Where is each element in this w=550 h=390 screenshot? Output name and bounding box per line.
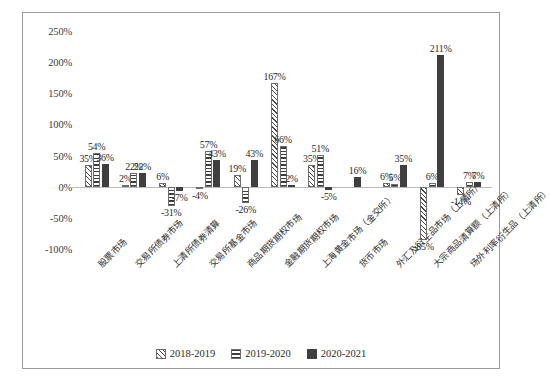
legend-label: 2019-2020 [245, 348, 291, 359]
bar-2019-2020-交易所债券市场 [130, 173, 137, 187]
y-axis-tick: 250% [48, 26, 72, 37]
zero-axis-line [72, 187, 492, 188]
data-label: 35% [395, 153, 412, 164]
bar-2019-2020-外汇及衍生品市场（上清所） [391, 184, 398, 187]
bar-2020-2021-外汇及衍生品市场（上清所） [400, 165, 407, 187]
data-label: 51% [312, 143, 329, 154]
bar-2018-2019-股票市场 [85, 165, 92, 187]
x-axis-label: 股票市场 [95, 236, 130, 271]
data-label: -85% [413, 241, 433, 252]
legend-item[interactable]: 2018-2019 [156, 348, 216, 359]
data-label: -4% [192, 190, 208, 201]
data-label: 19% [229, 163, 246, 174]
chart-frame: 250%200%150%100%50%0%-50%-100%35%54%36%股… [22, 12, 500, 369]
data-label: 2% [285, 173, 298, 184]
bar-2020-2021-上海黄金市场（金交所） [325, 187, 332, 190]
bar-2020-2021-货币市场 [354, 177, 361, 187]
legend-item[interactable]: 2020-2021 [307, 348, 367, 359]
bar-2019-2020-商品期货期权市场 [242, 187, 249, 203]
data-label: 54% [88, 141, 105, 152]
bar-2018-2019-交易所债券市场 [122, 185, 129, 187]
bar-2019-2020-场外利率衍生品（上清所） [466, 182, 473, 186]
legend-item[interactable]: 2019-2020 [231, 348, 291, 359]
y-axis-tick: 50% [53, 150, 72, 161]
legend-label: 2020-2021 [321, 348, 367, 359]
bar-2020-2021-金融期货期权市场 [288, 185, 295, 187]
data-label: -31% [161, 207, 181, 218]
plot-area: 250%200%150%100%50%0%-50%-100%35%54%36%股… [78, 31, 488, 249]
data-label: 43% [246, 148, 263, 159]
data-label: -26% [235, 204, 255, 215]
bar-2019-2020-上海黄金市场（金交所） [317, 155, 324, 187]
data-label: 36% [96, 152, 113, 163]
y-axis-tick: -50% [50, 212, 72, 223]
data-label: -5% [321, 191, 337, 202]
data-label: -7% [172, 192, 188, 203]
data-label: 22% [134, 161, 151, 172]
bar-2019-2020-大宗商品清算额（上清所） [429, 183, 436, 187]
bar-2018-2019-大宗商品清算额（上清所） [420, 187, 427, 240]
x-axis-label: 货币市场 [356, 236, 391, 271]
bar-2018-2019-场外利率衍生品（上清所） [457, 187, 464, 196]
y-axis-tick: -100% [45, 244, 72, 255]
data-label: 211% [430, 43, 452, 54]
data-label: 16% [349, 165, 366, 176]
y-axis-tick: 100% [48, 119, 72, 130]
data-label: -14% [451, 196, 471, 207]
bar-2018-2019-交易所基金市场 [196, 187, 203, 189]
legend-swatch-solid [307, 349, 317, 359]
bar-2020-2021-上清所债券清算 [176, 187, 183, 191]
bar-2020-2021-交易所基金市场 [213, 160, 220, 187]
y-axis-tick: 0% [58, 181, 72, 192]
bar-2018-2019-商品期货期权市场 [234, 175, 241, 187]
bar-2018-2019-上海黄金市场（金交所） [308, 165, 315, 187]
bar-2020-2021-交易所债券市场 [139, 173, 146, 187]
bar-2020-2021-大宗商品清算额（上清所） [437, 55, 444, 186]
legend-label: 2018-2019 [170, 348, 216, 359]
data-label: 43% [208, 148, 225, 159]
data-label: 66% [274, 134, 291, 145]
legend-swatch-horizontal-hatch [231, 349, 241, 359]
data-label: 167% [263, 71, 285, 82]
bar-2020-2021-商品期货期权市场 [251, 160, 258, 187]
data-label: 7% [471, 170, 484, 181]
legend-swatch-diagonal-hatch [156, 349, 166, 359]
y-axis-tick: 150% [48, 88, 72, 99]
chart-legend: 2018-20192019-20202020-2021 [23, 348, 499, 359]
y-axis-tick: 200% [48, 57, 72, 68]
bar-2020-2021-场外利率衍生品（上清所） [474, 182, 481, 186]
bar-2018-2019-上清所债券清算 [159, 183, 166, 187]
data-label: 6% [156, 171, 169, 182]
bar-2020-2021-股票市场 [102, 164, 109, 186]
bar-2018-2019-外汇及衍生品市场（上清所） [383, 183, 390, 187]
